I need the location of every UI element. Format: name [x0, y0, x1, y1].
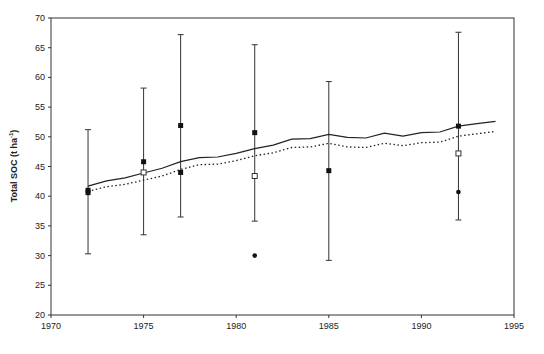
filled-circle-marker [456, 190, 461, 195]
x-tick-label: 1995 [504, 321, 524, 331]
y-tick-label: 30 [35, 251, 45, 261]
y-tick-label: 65 [35, 43, 45, 53]
x-tick-label: 1990 [411, 321, 431, 331]
open-square-marker [252, 174, 257, 179]
plot-border [51, 18, 514, 315]
model-lines [88, 121, 496, 191]
y-tick-label: 60 [35, 72, 45, 82]
filled-square-marker [86, 190, 91, 195]
x-tick-label: 1980 [226, 321, 246, 331]
y-tick-label: 70 [35, 13, 45, 23]
y-axis-title: Total SOC (t ha-1) [8, 130, 19, 203]
open-square-marker [141, 170, 146, 175]
plot-frame [51, 18, 514, 315]
filled-square-marker [178, 123, 183, 128]
filled-square-marker [252, 130, 257, 135]
x-tick-label: 1975 [134, 321, 154, 331]
y-tick-label: 35 [35, 221, 45, 231]
filled-circle-marker [252, 253, 257, 258]
y-tick-label: 55 [35, 102, 45, 112]
y-tick-label: 25 [35, 280, 45, 290]
error-bars [85, 32, 461, 260]
observed-markers [86, 123, 461, 258]
filled-square-marker [456, 124, 461, 129]
x-tick-label: 1985 [319, 321, 339, 331]
x-tick-label: 1970 [41, 321, 61, 331]
soc-chart: 2025303540455055606570 19701975198019851… [0, 0, 544, 354]
x-axis: 197019751980198519901995 [41, 315, 524, 331]
filled-square-marker [178, 170, 183, 175]
filled-square-marker [141, 159, 146, 164]
model-line-solid [88, 121, 496, 186]
y-tick-label: 20 [35, 310, 45, 320]
y-axis: 2025303540455055606570 [35, 13, 51, 320]
open-square-marker [456, 151, 461, 156]
y-tick-label: 50 [35, 132, 45, 142]
filled-square-marker [326, 168, 331, 173]
model-line-dotted [88, 132, 496, 192]
y-tick-label: 40 [35, 191, 45, 201]
y-tick-label: 45 [35, 162, 45, 172]
